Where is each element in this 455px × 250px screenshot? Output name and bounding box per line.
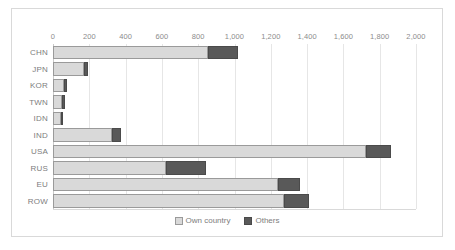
gridline <box>416 44 417 209</box>
bar-segment-own-country <box>53 95 62 109</box>
bar-segment-others <box>166 161 206 175</box>
bar-segment-own-country <box>53 128 112 142</box>
category-label-ind: IND <box>34 130 48 139</box>
bar-segment-others <box>284 194 309 208</box>
x-axis-tick-label: 600 <box>155 32 168 41</box>
bar-segment-own-country <box>53 112 61 126</box>
chart-row: ROW <box>53 193 416 210</box>
category-label-rus: RUS <box>31 163 49 172</box>
bar-segment-own-country <box>53 62 84 76</box>
x-axis-tick-label: 1,000 <box>225 32 244 41</box>
chart-row: EU <box>53 176 416 193</box>
stacked-bar <box>53 145 391 159</box>
chart-row: TWN <box>53 94 416 111</box>
chart-legend: Own countryOthers <box>12 216 442 225</box>
x-axis-tick-label: 1,400 <box>297 32 316 41</box>
category-label-twn: TWN <box>29 97 48 106</box>
bar-segment-own-country <box>53 46 208 60</box>
x-axis-tick-label: 800 <box>192 32 205 41</box>
bar-segment-own-country <box>53 194 284 208</box>
stacked-bar <box>53 178 300 192</box>
x-axis-tick-label: 1,800 <box>370 32 389 41</box>
chart-row: IND <box>53 127 416 144</box>
category-label-kor: KOR <box>30 81 48 90</box>
x-axis-tick-label: 1,200 <box>261 32 280 41</box>
chart-row: CHN <box>53 44 416 61</box>
chart-row: IDN <box>53 110 416 127</box>
bar-segment-others <box>62 95 65 109</box>
chart-row: USA <box>53 143 416 160</box>
category-label-eu: EU <box>36 180 48 189</box>
bar-segment-own-country <box>53 178 278 192</box>
bar-segment-own-country <box>53 161 166 175</box>
bar-segment-others <box>366 145 391 159</box>
legend-item-others[interactable]: Others <box>244 216 279 225</box>
legend-label: Others <box>255 216 279 225</box>
bar-segment-own-country <box>53 145 366 159</box>
stacked-bar <box>53 112 62 126</box>
stacked-bar <box>53 194 309 208</box>
x-axis-line <box>53 209 416 210</box>
x-axis-tick-label: 200 <box>83 32 96 41</box>
category-label-idn: IDN <box>34 114 48 123</box>
stacked-bar <box>53 79 67 93</box>
bar-segment-others <box>112 128 121 142</box>
chart-row: JPN <box>53 61 416 78</box>
x-axis-tick-label: 400 <box>119 32 132 41</box>
legend-swatch-icon <box>175 217 183 225</box>
category-label-usa: USA <box>31 147 48 156</box>
stacked-bar <box>53 95 65 109</box>
chart-container: 02004006008001,0001,2001,4001,6001,8002,… <box>11 8 443 237</box>
plot-area: CHNJPNKORTWNIDNINDUSARUSEUROW <box>53 44 416 209</box>
category-label-row: ROW <box>28 196 48 205</box>
bar-segment-others <box>84 62 88 76</box>
stacked-bar <box>53 128 121 142</box>
category-label-chn: CHN <box>30 48 48 57</box>
bar-segment-others <box>208 46 238 60</box>
bar-segment-others <box>64 79 67 93</box>
chart-row: RUS <box>53 160 416 177</box>
x-axis-tick-label: 0 <box>51 32 55 41</box>
legend-item-own-country[interactable]: Own country <box>175 216 231 225</box>
stacked-bar <box>53 46 238 60</box>
x-axis-tick-label: 1,600 <box>334 32 353 41</box>
legend-swatch-icon <box>244 217 252 225</box>
chart-row: KOR <box>53 77 416 94</box>
bar-segment-own-country <box>53 79 64 93</box>
category-label-jpn: JPN <box>32 64 48 73</box>
stacked-bar <box>53 161 206 175</box>
bar-segment-others <box>278 178 300 192</box>
legend-label: Own country <box>186 216 231 225</box>
x-axis-tick-label: 2,000 <box>406 32 425 41</box>
bar-segment-others <box>61 112 63 126</box>
stacked-bar <box>53 62 88 76</box>
